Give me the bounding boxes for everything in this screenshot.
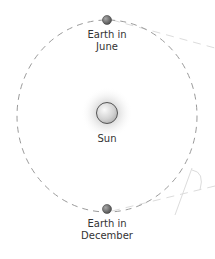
earth-june-label: Earth in June — [77, 29, 137, 53]
earth-december-label-line2: December — [72, 230, 142, 242]
sun-icon — [81, 87, 133, 139]
sun-label-text: Sun — [77, 133, 137, 145]
earth-december-label-line1: Earth in — [72, 218, 142, 230]
orbit-diagram: Earth in June Sun Earth in December — [0, 0, 215, 259]
earth-june-label-line1: Earth in — [77, 29, 137, 41]
earth-june-icon — [103, 16, 112, 25]
sun-label: Sun — [77, 133, 137, 145]
earth-june-label-line2: June — [77, 41, 137, 53]
earth-december-icon — [103, 205, 112, 214]
earth-december-label: Earth in December — [72, 218, 142, 242]
